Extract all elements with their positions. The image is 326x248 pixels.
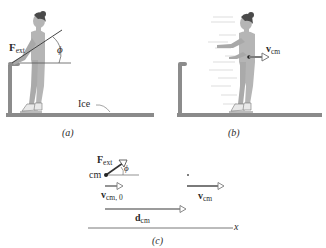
panel-a: Fext ϕ Ice (a) bbox=[0, 0, 163, 150]
cm-label: cm bbox=[89, 170, 101, 180]
v-cm-label-c: vcm bbox=[198, 191, 212, 203]
panel-a-drawing bbox=[0, 0, 163, 150]
cm-dot-c bbox=[104, 173, 108, 177]
force-ext-label-c: Fext bbox=[97, 155, 112, 167]
rail-post bbox=[8, 65, 12, 114]
v-cm-arrowhead-c bbox=[218, 183, 224, 190]
ice-pointer bbox=[96, 105, 110, 112]
ice-surface bbox=[6, 113, 154, 117]
panel-c-drawing bbox=[0, 150, 326, 248]
angle-arc-c bbox=[121, 167, 123, 175]
caption-b: (b) bbox=[228, 127, 240, 138]
d-cm-label: dcm bbox=[135, 213, 150, 225]
later-cm-marker bbox=[187, 174, 189, 176]
force-ext-label-a: Fext bbox=[9, 42, 25, 55]
rail-top-b bbox=[178, 62, 187, 66]
v-cm0-label: vcm, 0 bbox=[101, 190, 123, 202]
v-cm0-arrowhead bbox=[117, 183, 123, 190]
ice-label: Ice bbox=[78, 99, 90, 109]
panel-c: Fext ϕ cm vcm, 0 vcm dcm x (c) bbox=[0, 150, 326, 248]
angle-label-a: ϕ bbox=[57, 44, 63, 55]
panel-b-drawing bbox=[163, 0, 326, 150]
d-cm-arrowhead bbox=[180, 206, 186, 213]
caption-a: (a) bbox=[62, 127, 74, 138]
caption-c: (c) bbox=[152, 235, 163, 246]
x-axis-label: x bbox=[234, 222, 238, 232]
skater-a bbox=[12, 11, 46, 112]
rail-post-b bbox=[178, 64, 182, 114]
panel-b: vcm (b) bbox=[163, 0, 326, 150]
angle-label-c: ϕ bbox=[124, 164, 129, 173]
motion-streaks bbox=[208, 17, 238, 104]
v-cm-label-b: vcm bbox=[266, 44, 280, 56]
ice-surface-b bbox=[177, 113, 322, 117]
